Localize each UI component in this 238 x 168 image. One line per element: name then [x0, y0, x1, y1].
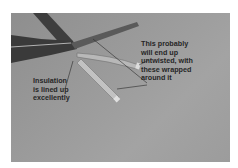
wire-down	[77, 59, 119, 101]
pointer-line-3	[117, 85, 147, 89]
pointer-line-1	[93, 39, 147, 83]
wire-long-upper	[71, 22, 139, 49]
annotation-insulation: Insulation is lined up excellently	[33, 77, 70, 103]
wire-right-tip	[135, 63, 141, 70]
annotation-untwisted: This probably will end up untwisted, wit…	[141, 40, 193, 83]
